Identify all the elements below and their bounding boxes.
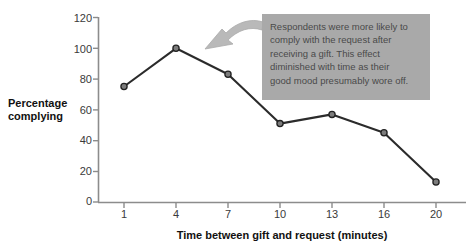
annotation-line: good mood presumably wore off.: [270, 74, 423, 87]
data-point: [225, 71, 231, 77]
data-point: [433, 179, 439, 185]
annotation-callout-box: Respondents were more likely to comply w…: [262, 14, 430, 100]
data-point: [173, 45, 179, 51]
annotation-line: comply with the request after: [270, 33, 423, 46]
data-point: [277, 121, 283, 127]
callout-arrow-icon: [205, 20, 263, 49]
annotation-line: diminished with time as their: [270, 60, 423, 73]
y-axis-ticks: [93, 18, 98, 203]
data-point: [381, 130, 387, 136]
annotation-line: receiving a gift. This effect: [270, 47, 423, 60]
data-point: [121, 83, 127, 89]
annotation-line: Respondents were more likely to: [270, 20, 423, 33]
line-chart: Percentage complying 120 100 80 60 40 20…: [0, 0, 471, 249]
x-axis-ticks: [124, 203, 436, 208]
x-axis-title: Time between gift and request (minutes): [98, 229, 466, 241]
data-point: [329, 111, 335, 117]
